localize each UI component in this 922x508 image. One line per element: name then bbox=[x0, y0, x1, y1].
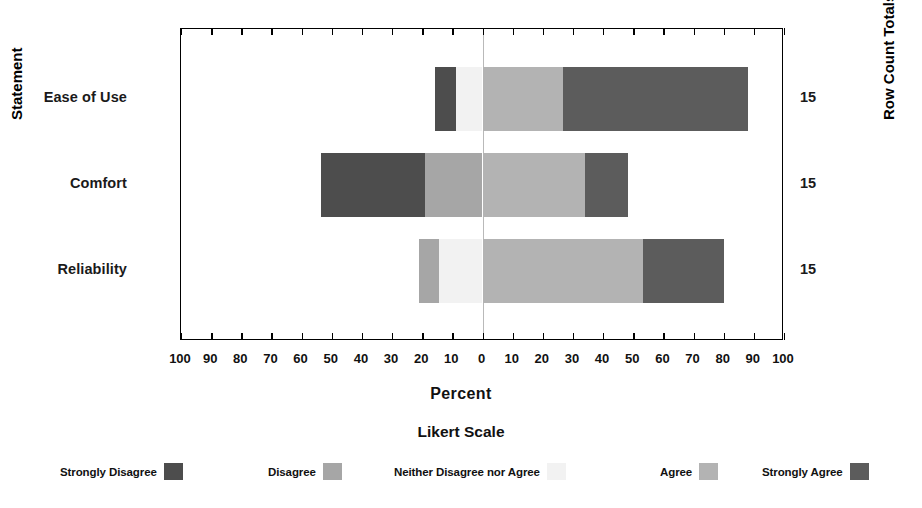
x-tick bbox=[694, 333, 695, 340]
row-count-total: 15 bbox=[800, 261, 840, 277]
legend-item-label: Neither Disagree nor Agree bbox=[394, 466, 540, 478]
bar-segment-strongly-agree bbox=[563, 67, 748, 131]
x-tick bbox=[392, 333, 393, 340]
legend-item-disagree[interactable]: Disagree bbox=[268, 463, 342, 480]
x-tick bbox=[302, 28, 303, 35]
y-category-label: Ease of Use bbox=[0, 89, 127, 105]
likert-chart-figure: Statement Row Count Totals Ease of UseCo… bbox=[0, 0, 922, 508]
legend-item-neither-disagree-nor-agree[interactable]: Neither Disagree nor Agree bbox=[394, 463, 566, 480]
x-tick bbox=[543, 28, 544, 35]
legend-swatch bbox=[850, 463, 869, 480]
legend: Strongly DisagreeDisagreeNeither Disagre… bbox=[0, 463, 922, 483]
x-tick bbox=[513, 28, 514, 35]
x-tick bbox=[694, 28, 695, 35]
y-category-label: Comfort bbox=[0, 175, 127, 191]
y-axis-title-right: Row Count Totals bbox=[880, 0, 897, 120]
x-tick bbox=[663, 28, 664, 35]
x-tick bbox=[241, 28, 242, 35]
bar-ease-of-use bbox=[181, 67, 782, 131]
x-tick bbox=[241, 333, 242, 340]
x-tick bbox=[211, 333, 212, 340]
legend-item-label: Strongly Agree bbox=[762, 466, 843, 478]
x-tick bbox=[392, 28, 393, 35]
legend-swatch bbox=[699, 463, 718, 480]
bar-segment-agree bbox=[483, 239, 644, 303]
x-tick bbox=[543, 333, 544, 340]
plot-area bbox=[180, 28, 783, 340]
bar-segment-strongly-agree bbox=[643, 239, 724, 303]
x-tick bbox=[573, 28, 574, 35]
legend-item-label: Agree bbox=[660, 466, 692, 478]
x-tick bbox=[633, 28, 634, 35]
legend-item-agree[interactable]: Agree bbox=[660, 463, 718, 480]
y-axis-title-left: Statement bbox=[8, 47, 25, 120]
bar-segment-neither-disagree-nor-agree bbox=[439, 239, 482, 303]
x-tick bbox=[452, 333, 453, 340]
x-tick bbox=[633, 333, 634, 340]
x-tick bbox=[784, 333, 785, 340]
x-tick bbox=[663, 333, 664, 340]
legend-item-label: Disagree bbox=[268, 466, 316, 478]
x-tick bbox=[271, 28, 272, 35]
bar-comfort bbox=[181, 153, 782, 217]
y-category-label: Reliability bbox=[0, 261, 127, 277]
x-tick bbox=[754, 333, 755, 340]
x-tick bbox=[452, 28, 453, 35]
x-tick bbox=[181, 333, 182, 340]
x-tick bbox=[483, 28, 484, 35]
x-axis-title: Percent bbox=[0, 385, 922, 403]
bar-reliability bbox=[181, 239, 782, 303]
x-tick bbox=[483, 333, 484, 340]
row-count-total: 15 bbox=[800, 175, 840, 191]
bar-segment-strongly-disagree bbox=[321, 153, 426, 217]
bar-segment-neither-disagree-nor-agree bbox=[456, 67, 482, 131]
legend-title: Likert Scale bbox=[0, 423, 922, 441]
x-tick bbox=[724, 28, 725, 35]
x-tick bbox=[332, 333, 333, 340]
x-tick bbox=[784, 28, 785, 35]
bar-segment-disagree bbox=[419, 239, 439, 303]
x-tick bbox=[603, 28, 604, 35]
x-tick bbox=[422, 28, 423, 35]
bar-segment-agree bbox=[483, 153, 586, 217]
x-tick bbox=[332, 28, 333, 35]
x-tick bbox=[603, 333, 604, 340]
x-tick bbox=[422, 333, 423, 340]
bar-segment-strongly-agree bbox=[585, 153, 628, 217]
x-tick bbox=[513, 333, 514, 340]
x-tick-label: 100 bbox=[763, 351, 803, 366]
x-tick bbox=[754, 28, 755, 35]
bar-segment-disagree bbox=[425, 153, 482, 217]
plot-inner bbox=[181, 29, 782, 339]
bar-segment-strongly-disagree bbox=[435, 67, 456, 131]
row-count-total: 15 bbox=[800, 89, 840, 105]
x-tick bbox=[724, 333, 725, 340]
x-tick bbox=[362, 28, 363, 35]
legend-item-strongly-disagree[interactable]: Strongly Disagree bbox=[60, 463, 183, 480]
x-tick bbox=[271, 333, 272, 340]
x-tick bbox=[302, 333, 303, 340]
bar-segment-agree bbox=[483, 67, 564, 131]
legend-item-strongly-agree[interactable]: Strongly Agree bbox=[762, 463, 869, 480]
legend-swatch bbox=[547, 463, 566, 480]
legend-swatch bbox=[164, 463, 183, 480]
legend-swatch bbox=[323, 463, 342, 480]
legend-item-label: Strongly Disagree bbox=[60, 466, 157, 478]
x-tick bbox=[181, 28, 182, 35]
x-tick bbox=[211, 28, 212, 35]
x-tick bbox=[573, 333, 574, 340]
x-tick bbox=[362, 333, 363, 340]
